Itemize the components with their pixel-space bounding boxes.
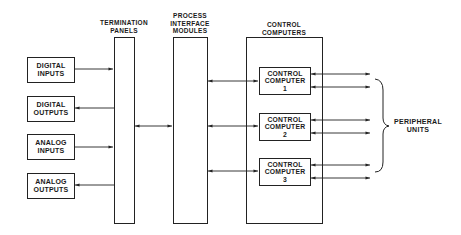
block-label: CONTROL bbox=[267, 70, 302, 78]
block-number: 3 bbox=[283, 176, 287, 184]
block-number: 2 bbox=[283, 131, 287, 139]
digital-inputs-block: DIGITAL INPUTS bbox=[27, 57, 75, 83]
block-label: CONTROL bbox=[267, 161, 302, 169]
block-label: OUTPUTS bbox=[34, 109, 69, 117]
label-line: UNITS bbox=[388, 126, 448, 134]
termination-panels-column bbox=[114, 37, 135, 224]
block-label: ANALOG bbox=[35, 178, 67, 186]
block-label: OUTPUTS bbox=[34, 186, 69, 194]
block-label: CONTROL bbox=[267, 116, 302, 124]
block-label: INPUTS bbox=[38, 70, 65, 78]
label-line: PERIPHERAL bbox=[388, 118, 448, 126]
block-label: COMPUTER bbox=[265, 77, 306, 85]
block-label: ANALOG bbox=[35, 139, 67, 147]
block-label: COMPUTER bbox=[265, 123, 306, 131]
brace-icon bbox=[375, 79, 389, 172]
block-label: DIGITAL bbox=[37, 101, 66, 109]
control-computer-2: CONTROL COMPUTER 2 bbox=[259, 113, 311, 141]
process-interface-modules-column bbox=[173, 37, 208, 224]
block-number: 1 bbox=[283, 85, 287, 93]
block-label: INPUTS bbox=[38, 147, 65, 155]
analog-outputs-block: ANALOG OUTPUTS bbox=[27, 173, 75, 199]
block-label: DIGITAL bbox=[37, 62, 66, 70]
control-computer-3: CONTROL COMPUTER 3 bbox=[259, 158, 311, 186]
control-computer-1: CONTROL COMPUTER 1 bbox=[259, 67, 311, 95]
block-label: COMPUTER bbox=[265, 168, 306, 176]
analog-inputs-block: ANALOG INPUTS bbox=[27, 134, 75, 160]
peripheral-units-label: PERIPHERAL UNITS bbox=[388, 118, 448, 134]
digital-outputs-block: DIGITAL OUTPUTS bbox=[27, 96, 75, 122]
